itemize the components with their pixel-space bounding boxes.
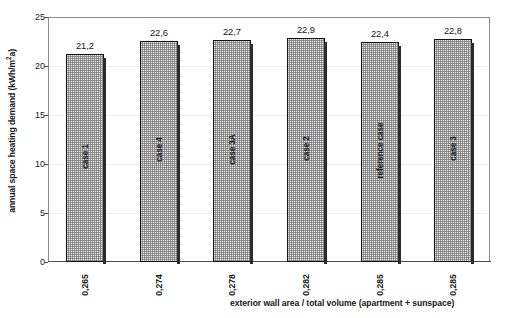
x-tick-label: 0,274 bbox=[152, 266, 166, 310]
y-tick-mark bbox=[44, 164, 48, 165]
y-axis-title-superscript: 2 bbox=[5, 57, 12, 60]
y-tick-label: 20 bbox=[21, 61, 45, 71]
bar-inner-label: case 2 bbox=[302, 136, 311, 160]
gridline bbox=[49, 115, 489, 116]
bar-group: reference case22,4 bbox=[361, 17, 399, 262]
gridline bbox=[49, 213, 489, 214]
x-tick-label-text: 0,285 bbox=[448, 274, 458, 296]
bar-value-label: 22,4 bbox=[371, 29, 389, 39]
y-tick-mark bbox=[44, 115, 48, 116]
bar-group: case 121,2 bbox=[66, 17, 104, 262]
y-tick-mark bbox=[44, 17, 48, 18]
x-axis-title: exterior wall area / total volume (apart… bbox=[230, 298, 454, 308]
x-tick-label-text: 0,278 bbox=[227, 274, 237, 296]
bar-chart-figure: annual space heating demand (kWh/m2a) 05… bbox=[0, 0, 507, 318]
bar: reference case bbox=[361, 42, 399, 262]
bar: case 4 bbox=[140, 41, 178, 262]
bar-value-label: 22,9 bbox=[297, 25, 315, 35]
x-tick-label: 0,265 bbox=[78, 266, 92, 310]
bar-inner-label: case 1 bbox=[81, 144, 90, 168]
x-axis-line bbox=[48, 261, 491, 262]
y-tick-label: 5 bbox=[21, 208, 45, 218]
bar: case 2 bbox=[287, 38, 325, 262]
bar: case 1 bbox=[66, 54, 104, 262]
y-axis-title-tail: a) bbox=[7, 49, 17, 56]
bar: case 3A bbox=[213, 40, 251, 262]
bar-value-label: 21,2 bbox=[76, 41, 94, 51]
y-tick-mark bbox=[44, 213, 48, 214]
bar-group: case 322,8 bbox=[434, 17, 472, 262]
y-tick-mark bbox=[44, 262, 48, 263]
bar-group: case 422,6 bbox=[140, 17, 178, 262]
x-tick-label-text: 0,274 bbox=[154, 274, 164, 296]
y-tick-label: 15 bbox=[21, 110, 45, 120]
y-tick-label: 0 bbox=[21, 257, 45, 267]
bar-inner-label: reference case bbox=[376, 123, 385, 179]
plot-area bbox=[48, 17, 490, 262]
x-tick-label-text: 0,282 bbox=[301, 274, 311, 296]
bar-inner-label: case 3 bbox=[449, 137, 458, 161]
gridline bbox=[49, 164, 489, 165]
y-tick-label: 10 bbox=[21, 159, 45, 169]
bar-value-label: 22,8 bbox=[444, 26, 462, 36]
bar-value-label: 22,6 bbox=[150, 28, 168, 38]
bar-inner-label: case 3A bbox=[228, 134, 237, 164]
bar-inner-label: case 4 bbox=[155, 138, 164, 162]
y-tick-mark bbox=[44, 66, 48, 67]
bar: case 3 bbox=[434, 39, 472, 262]
x-tick-label-text: 0,285 bbox=[375, 274, 385, 296]
bar-group: case 3A22,7 bbox=[213, 17, 251, 262]
bar-value-label: 22,7 bbox=[223, 27, 241, 37]
y-tick-label: 25 bbox=[21, 12, 45, 22]
y-axis-title-main: annual space heating demand (kWh/m bbox=[7, 60, 17, 213]
bar-group: case 222,9 bbox=[287, 17, 325, 262]
gridline bbox=[49, 66, 489, 67]
y-axis-title: annual space heating demand (kWh/m2a) bbox=[0, 0, 22, 262]
x-tick-label-text: 0,265 bbox=[80, 274, 90, 296]
